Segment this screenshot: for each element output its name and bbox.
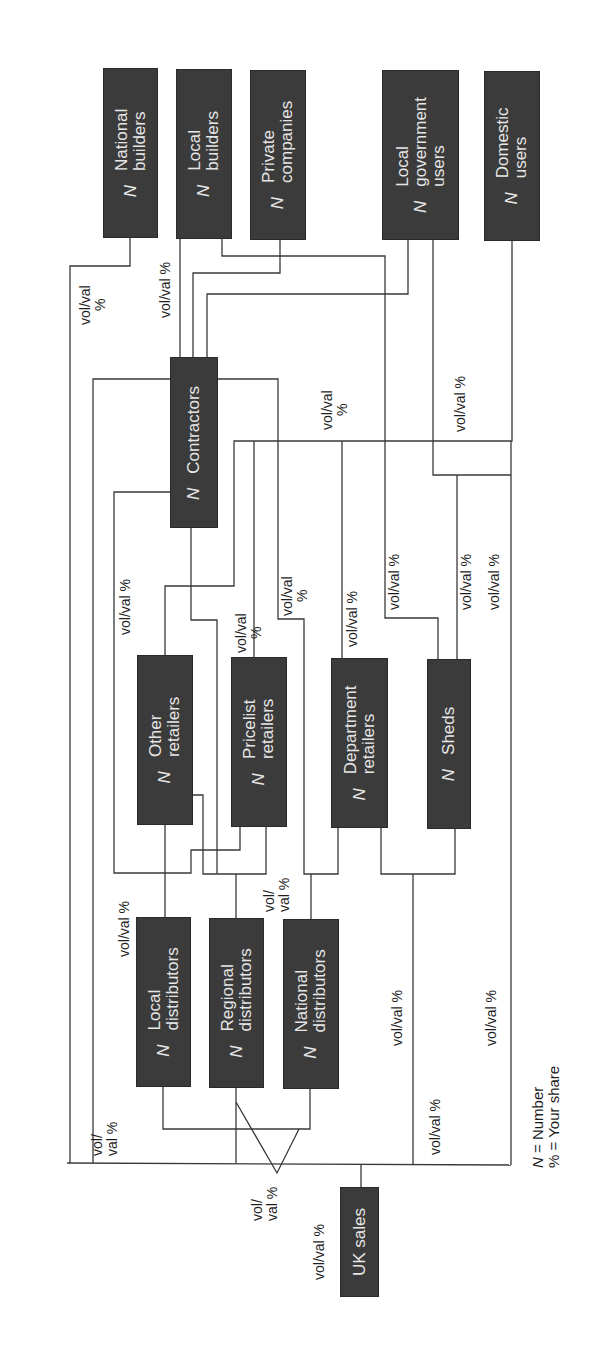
node-other-retailers: NOtherretailers [137, 655, 193, 825]
flow-label-text: vol/val % [487, 554, 502, 610]
number-label: N [227, 1045, 247, 1057]
flow-label-text: vol/val % [428, 1099, 443, 1155]
number-label: N [502, 192, 522, 204]
node-pricelist-retailers: NPricelistretailers [231, 657, 287, 827]
flow-label: vol/val % [390, 990, 405, 1046]
node-national-distributors: NNationaldistributors [283, 919, 339, 1089]
node-national-builders: NNationalbuilders [103, 68, 158, 238]
flow-label-text: vol/val % [459, 554, 474, 610]
flow-label: vol/val% [78, 285, 108, 325]
node-local-distributors: NLocaldistributors [136, 917, 191, 1087]
flow-label: vol/val% [280, 576, 310, 616]
flow-label-text: vol/val % [387, 554, 402, 610]
local-gov-link-b [433, 240, 511, 475]
node-label: Other [147, 697, 165, 757]
node-label: Private [260, 101, 278, 183]
number-label: N [249, 773, 269, 785]
number-label: N [439, 769, 459, 781]
legend-share: % = Your share [546, 1066, 562, 1168]
node-label: Local [186, 111, 204, 171]
flow-label-text: vol/ [262, 878, 277, 912]
number-label: N [350, 788, 370, 800]
node-label: distributors [311, 949, 329, 1032]
flow-label-text: vol/val % [117, 901, 132, 957]
flow-label-text: vol/ [90, 1122, 105, 1156]
node-label: retailers [360, 685, 378, 774]
flow-label-text: % [335, 390, 350, 430]
flow-label-text: vol/val % [484, 990, 499, 1046]
node-label: companies [278, 101, 296, 183]
contractors-bottom-link [191, 528, 217, 874]
flow-label: vol/val % [118, 579, 133, 635]
flow-label-text: vol/val % [390, 990, 405, 1046]
node-label: builders [131, 109, 149, 171]
flow-label: vol/val % [428, 1099, 443, 1155]
node-uk-sales: UK sales [340, 1187, 379, 1297]
node-label: Local [394, 97, 412, 187]
flow-label-text: val % [105, 1122, 120, 1156]
flow-label: vol/val % [262, 878, 292, 912]
node-label: Contractors [185, 385, 203, 473]
flow-label-text: vol/val [78, 285, 93, 325]
node-domestic-users: NDomesticusers [484, 71, 540, 241]
flow-label-text: % [295, 576, 310, 616]
number-label: N [155, 771, 175, 783]
node-label: Local [146, 947, 164, 1030]
node-label: retailers [259, 699, 277, 759]
flow-label-text: vol/val % [312, 1224, 327, 1280]
node-label: distributors [237, 948, 255, 1031]
flow-label-text: vol/val % [345, 591, 360, 647]
main-bus-line [67, 1163, 511, 1165]
flow-label-text: vol/ [250, 1187, 265, 1221]
flow-label-text: vol/val % [158, 262, 173, 318]
node-label: Department [342, 685, 360, 774]
node-local-government-users: NLocalgovernmentusers [382, 70, 459, 240]
legend-number: N = Number [530, 1066, 546, 1168]
node-label: Pricelist [241, 699, 259, 759]
flow-label-text: val % [277, 878, 292, 912]
flow-label-text: vol/val % [118, 579, 133, 635]
node-private-companies: NPrivatecompanies [250, 70, 306, 240]
split-triangle [236, 1102, 299, 1173]
node-label: distributors [164, 947, 182, 1030]
number-label: N [184, 487, 204, 499]
node-label: National [293, 949, 311, 1032]
flow-label: vol/val % [250, 1187, 280, 1221]
national-builders-link [70, 238, 130, 1163]
legend-n-symbol: N [529, 1157, 546, 1168]
node-label: UK sales [351, 1208, 369, 1276]
flow-label: vol/val % [312, 1224, 327, 1280]
flow-label-text: % [93, 285, 108, 325]
private-companies-link [193, 240, 280, 357]
node-sheds: NSheds [427, 659, 471, 829]
node-label: users [430, 97, 448, 187]
node-department-retailers: NDepartmentretailers [331, 658, 388, 828]
node-label: government [412, 97, 430, 187]
node-label: Sheds [440, 707, 458, 755]
number-label: N [411, 201, 431, 213]
flow-label: vol/val% [320, 390, 350, 430]
number-label: N [268, 197, 288, 209]
dept-sheds-join [381, 828, 455, 874]
flow-label: vol/val % [345, 591, 360, 647]
node-label: builders [204, 111, 222, 171]
flow-label-text: vol/val [280, 576, 295, 616]
node-regional-distributors: NRegionaldistributors [209, 918, 264, 1088]
flow-label: vol/val % [117, 901, 132, 957]
flow-label-text: vol/val [320, 390, 335, 430]
flow-label-text: vol/val [234, 613, 249, 653]
legend: N = Number % = Your share [530, 1066, 562, 1168]
flow-label-text: val % [265, 1187, 280, 1221]
node-local-builders: NLocalbuilders [176, 69, 232, 239]
number-label: N [301, 1046, 321, 1058]
local-gov-link-a [207, 240, 408, 357]
flow-label: vol/val % [453, 376, 468, 432]
node-label: Regional [219, 948, 237, 1031]
flow-label-text: vol/val % [453, 376, 468, 432]
flow-label: vol/val % [487, 554, 502, 610]
node-label: retailers [165, 697, 183, 757]
number-label: N [154, 1044, 174, 1056]
flow-label: vol/val % [484, 990, 499, 1046]
flow-label: vol/val % [158, 262, 173, 318]
flow-label: vol/val % [459, 554, 474, 610]
